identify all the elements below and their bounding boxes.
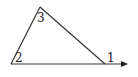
triangle-shape — [11, 7, 121, 64]
angle-label-2: 2 — [15, 51, 23, 65]
arrowhead-icon — [121, 61, 128, 67]
angle-label-3: 3 — [37, 11, 45, 25]
right-side — [40, 7, 105, 64]
triangle-diagram: 3 2 1 — [0, 0, 138, 77]
angle-label-1: 1 — [107, 51, 115, 65]
